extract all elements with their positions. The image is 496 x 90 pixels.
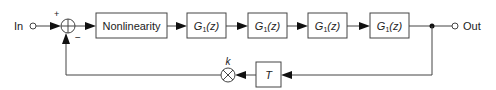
g1-block-2: G1(z) <box>248 13 287 38</box>
delay-block-t: T <box>256 62 281 87</box>
g1-block-4: G1(z) <box>370 13 409 38</box>
nonlinearity-label: Nonlinearity <box>102 20 161 32</box>
feedback-block-diagram: In + − Nonlinearity G1(z) G1(z) G1(z) <box>0 0 496 90</box>
minus-sign: − <box>75 32 81 43</box>
gain-multiplier <box>221 68 235 82</box>
arrow-into-nonlinearity <box>85 22 96 30</box>
g1-label-arg: (z) <box>327 20 340 32</box>
arrow-into-g1a <box>176 22 187 30</box>
output-terminal <box>452 23 458 29</box>
wire-gain-to-sum <box>66 42 221 75</box>
g1-block-3: G1(z) <box>308 13 347 38</box>
arrow-into-sum-feedback <box>62 33 70 44</box>
svg-text:G1(z): G1(z) <box>255 20 281 33</box>
svg-text:G1(z): G1(z) <box>377 20 403 33</box>
arrow-into-g1b <box>237 22 248 30</box>
g1-label-arg: (z) <box>206 20 219 32</box>
plus-sign: + <box>54 9 59 19</box>
input-label: In <box>14 20 23 32</box>
svg-text:G1(z): G1(z) <box>194 20 220 33</box>
g1-label-arg: (z) <box>267 20 280 32</box>
nonlinearity-block: Nonlinearity <box>96 13 167 38</box>
arrow-into-sum <box>50 22 61 30</box>
g1-block-1: G1(z) <box>187 13 226 38</box>
svg-text:G1(z): G1(z) <box>315 20 341 33</box>
arrow-into-gain <box>235 71 246 79</box>
summing-junction <box>61 19 75 33</box>
output-label: Out <box>463 20 481 32</box>
input-terminal <box>30 23 36 29</box>
g1-label-arg: (z) <box>389 20 402 32</box>
arrow-into-g1c <box>297 22 308 30</box>
gain-label-k: k <box>226 56 232 67</box>
arrow-into-delay <box>281 71 292 79</box>
arrow-into-g1d <box>359 22 370 30</box>
